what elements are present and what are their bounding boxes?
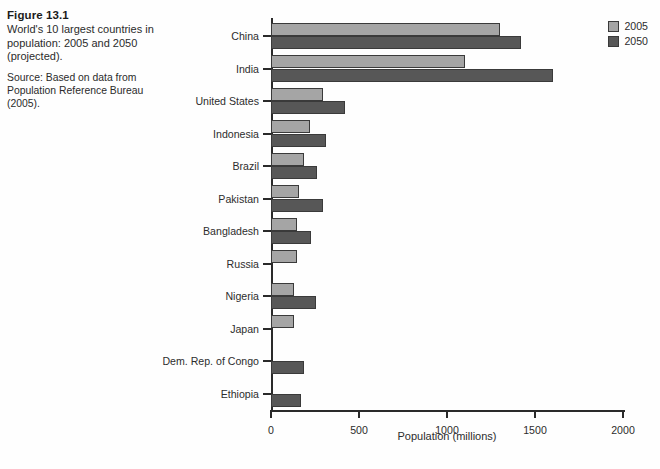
legend-item-2005: 2005 [608, 20, 648, 32]
plot-area: ChinaIndiaUnited StatesIndonesiaBrazilPa… [271, 20, 623, 410]
y-axis-label: United States [195, 95, 259, 107]
bar-2050 [271, 36, 521, 49]
y-axis-label: China [231, 30, 259, 42]
bar-2005 [271, 23, 500, 36]
bar-2050 [271, 231, 311, 244]
bar-2050 [271, 69, 553, 82]
y-axis-tick [263, 295, 271, 297]
y-axis-tick [263, 328, 271, 330]
figure-caption: Figure 13.1 World's 10 largest countries… [7, 8, 167, 110]
x-axis-title: Population (millions) [271, 430, 623, 442]
y-axis-label: Ethiopia [221, 388, 259, 400]
chart-legend: 2005 2050 [608, 20, 648, 47]
legend-label-2005: 2005 [624, 20, 648, 32]
bar-2050 [271, 166, 317, 179]
bar-2005 [271, 283, 294, 296]
y-axis-tick [263, 230, 271, 232]
bar-2005 [271, 185, 299, 198]
y-axis-tick [263, 198, 271, 200]
y-axis-tick [263, 35, 271, 37]
y-axis-tick [263, 165, 271, 167]
bar-2005 [271, 55, 465, 68]
legend-swatch-2050 [608, 36, 619, 47]
legend-swatch-2005 [608, 21, 619, 32]
figure-source: Source: Based on data from Population Re… [7, 71, 167, 111]
bar-2005 [271, 218, 297, 231]
bar-2050 [271, 101, 345, 114]
figure-number: Figure 13.1 [7, 8, 167, 22]
bar-2005 [271, 88, 323, 101]
legend-label-2050: 2050 [624, 35, 648, 47]
bar-2050 [271, 296, 316, 309]
figure-page: Figure 13.1 World's 10 largest countries… [0, 0, 660, 469]
y-axis-label: Nigeria [225, 290, 259, 302]
x-axis-tick [358, 410, 360, 418]
bar-2050 [271, 199, 323, 212]
bar-2005 [271, 153, 304, 166]
bar-2050 [271, 394, 301, 407]
bar-2005 [271, 250, 297, 263]
y-axis-label: Pakistan [218, 193, 259, 205]
y-axis-tick [263, 68, 271, 70]
y-axis-label: Russia [227, 258, 259, 270]
y-axis-label: Bangladesh [203, 225, 259, 237]
bar-2005 [271, 120, 310, 133]
x-axis-tick [534, 410, 536, 418]
y-axis-label: Brazil [233, 160, 260, 172]
y-axis-tick [263, 100, 271, 102]
bar-2050 [271, 134, 326, 147]
y-axis-tick [263, 393, 271, 395]
y-axis-label: Japan [230, 323, 259, 335]
y-axis-tick [263, 263, 271, 265]
bar-chart: ChinaIndiaUnited StatesIndonesiaBrazilPa… [170, 6, 654, 461]
x-axis-tick [622, 410, 624, 418]
figure-description: World's 10 largest countries in populati… [7, 23, 167, 64]
x-axis-line [271, 410, 625, 412]
legend-item-2050: 2050 [608, 35, 648, 47]
x-axis-tick [270, 410, 272, 418]
x-axis-tick [446, 410, 448, 418]
y-axis-label: Dem. Rep. of Congo [162, 355, 259, 367]
y-axis-label: Indonesia [213, 128, 259, 140]
bar-2050 [271, 361, 304, 374]
y-axis-label: India [236, 63, 259, 75]
y-axis-tick [263, 133, 271, 135]
bar-2005 [271, 315, 294, 328]
y-axis-tick [263, 360, 271, 362]
